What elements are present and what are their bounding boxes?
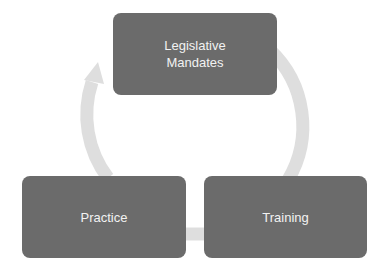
node-label: Training bbox=[262, 209, 308, 226]
node-label: Practice bbox=[81, 209, 128, 226]
node-training: Training bbox=[204, 176, 367, 258]
node-label-line1: Legislative bbox=[164, 37, 225, 54]
node-legislative-mandates: Legislative Mandates bbox=[113, 13, 277, 95]
arrow-practice-to-mandates bbox=[87, 82, 108, 178]
node-label-line2: Mandates bbox=[164, 54, 225, 71]
node-practice: Practice bbox=[22, 176, 186, 258]
